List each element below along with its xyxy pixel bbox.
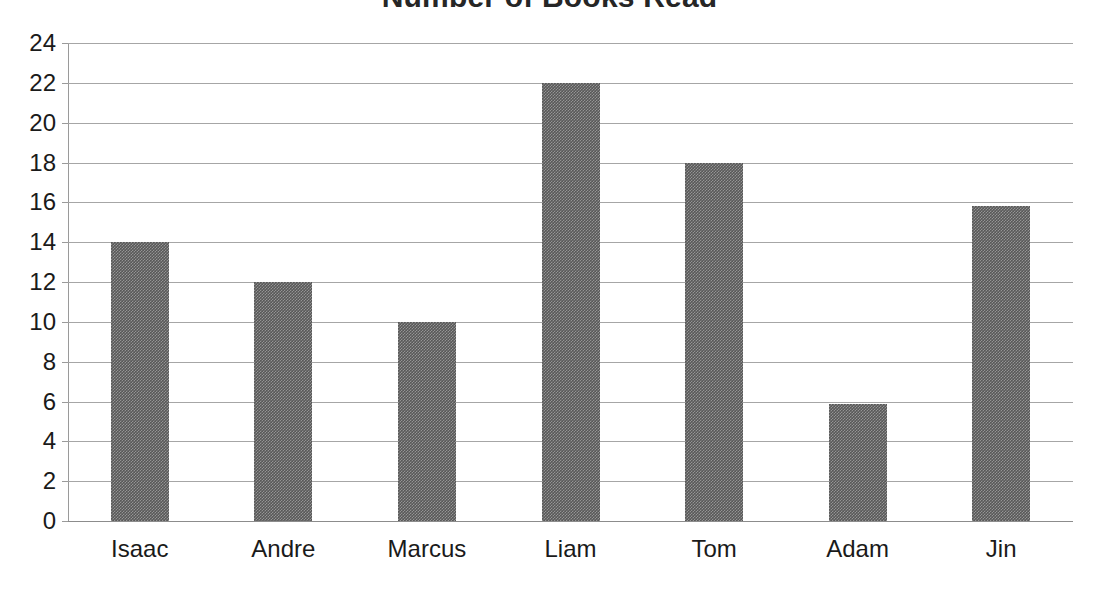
y-axis-label: 22 [4, 71, 56, 95]
x-axis-label: Marcus [355, 536, 499, 562]
y-axis-label: 10 [4, 310, 56, 334]
y-axis-tick [62, 242, 68, 243]
y-axis-label: 18 [4, 151, 56, 175]
y-axis-label: 14 [4, 230, 56, 254]
y-axis-tick [62, 163, 68, 164]
y-axis-tick [62, 123, 68, 124]
bar-chart: Number of Books Read 0246810121416182022… [0, 0, 1099, 590]
y-axis-label: 12 [4, 270, 56, 294]
y-axis-tick [62, 202, 68, 203]
x-axis-label: Jin [929, 536, 1073, 562]
y-axis-label: 4 [4, 429, 56, 453]
y-axis-label: 2 [4, 469, 56, 493]
bar[interactable] [254, 282, 312, 521]
y-axis-tick [62, 43, 68, 44]
y-axis-tick [62, 402, 68, 403]
chart-title: Number of Books Read [0, 0, 1099, 14]
x-axis-label: Tom [642, 536, 786, 562]
y-axis-label: 20 [4, 111, 56, 135]
bar[interactable] [685, 163, 743, 522]
gridline [68, 521, 1073, 522]
y-axis-label: 16 [4, 190, 56, 214]
y-axis-tick [62, 521, 68, 522]
bar[interactable] [542, 83, 600, 521]
bar[interactable] [829, 404, 887, 522]
x-axis-label: Isaac [68, 536, 212, 562]
y-axis-label: 8 [4, 350, 56, 374]
y-axis-tick [62, 83, 68, 84]
y-axis-tick [62, 362, 68, 363]
y-axis-tick [62, 441, 68, 442]
plot-area [68, 43, 1073, 521]
y-axis-label: 24 [4, 31, 56, 55]
x-axis-label: Andre [212, 536, 356, 562]
bar[interactable] [111, 242, 169, 521]
y-axis-tick [62, 282, 68, 283]
gridline [68, 43, 1073, 44]
y-axis-tick [62, 322, 68, 323]
bar[interactable] [398, 322, 456, 521]
x-axis-label: Liam [499, 536, 643, 562]
y-axis-label: 0 [4, 509, 56, 533]
y-axis-tick [62, 481, 68, 482]
y-axis-labels: 024681012141618202224 [0, 0, 56, 590]
x-axis-label: Adam [786, 536, 930, 562]
bar[interactable] [972, 206, 1030, 521]
y-axis-label: 6 [4, 390, 56, 414]
